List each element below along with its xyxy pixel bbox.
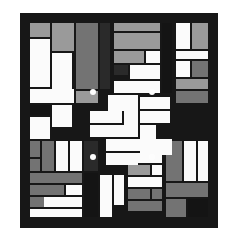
pattern-dot: [90, 89, 96, 95]
pattern-rectangle: [152, 165, 162, 175]
pattern-rectangle: [100, 175, 112, 217]
pattern-rectangle: [30, 159, 40, 171]
pattern-rectangle: [52, 23, 74, 51]
pattern-rectangle: [176, 51, 208, 59]
pattern-rectangle: [114, 65, 128, 75]
pattern-rectangle: [176, 23, 190, 49]
pattern-rectangle: [30, 173, 82, 183]
pattern-rectangle: [30, 105, 50, 115]
pattern-rectangle: [30, 89, 74, 103]
pattern-rectangle: [108, 95, 124, 111]
pattern-rectangle: [176, 91, 208, 103]
pattern-rectangle: [176, 79, 208, 89]
pattern-dot: [90, 154, 96, 160]
pattern-rectangle: [106, 153, 138, 165]
pattern-dot: [149, 89, 155, 95]
pattern-rectangle: [162, 23, 172, 93]
pattern-rectangle: [140, 125, 156, 155]
pattern-rectangle: [166, 183, 208, 197]
pattern-rectangle: [100, 23, 110, 89]
pattern-rectangle: [30, 141, 40, 157]
pattern-rectangle: [166, 199, 186, 217]
pattern-rectangle: [56, 141, 68, 171]
pattern-rectangle: [66, 185, 82, 195]
pattern-rectangle: [156, 139, 172, 155]
pattern-rectangle: [192, 61, 208, 77]
pattern-rectangle: [128, 177, 162, 187]
pattern-rectangle: [198, 141, 208, 181]
pattern-rectangle: [128, 189, 150, 199]
pattern-rectangle: [128, 165, 150, 175]
pattern-rectangle: [42, 141, 54, 171]
pattern-rectangle: [114, 175, 124, 205]
pattern-rectangle: [90, 125, 138, 137]
pattern-rectangle: [30, 39, 50, 87]
pattern-rectangle: [84, 173, 98, 217]
pattern-rectangle: [176, 61, 190, 77]
pattern-rectangle: [90, 111, 122, 123]
pattern-rectangle: [30, 117, 50, 139]
artwork-canvas: Geometric Quilt Pattern Abstract rectili…: [0, 0, 236, 243]
pattern-rectangle: [52, 105, 72, 127]
pattern-rectangle: [30, 209, 82, 217]
pattern-rectangle: [70, 141, 82, 171]
artwork-title: Geometric Quilt Pattern: [0, 21, 1, 22]
pattern-rectangle: [188, 199, 208, 217]
pattern-rectangle: [52, 53, 72, 89]
pattern-field: [20, 13, 218, 228]
pattern-rectangle: [130, 65, 160, 79]
pattern-rectangle: [184, 141, 196, 181]
pattern-border-frame: [20, 13, 218, 228]
pattern-rectangle: [114, 33, 160, 49]
pattern-rectangle: [140, 97, 170, 109]
pattern-rectangle: [152, 189, 162, 199]
pattern-rectangle: [114, 23, 160, 31]
pattern-rectangle: [30, 185, 64, 195]
pattern-rectangle: [44, 197, 82, 207]
pattern-rectangle: [76, 23, 98, 89]
pattern-dot: [149, 154, 155, 160]
pattern-rectangle: [124, 95, 138, 125]
pattern-rectangle: [192, 23, 208, 49]
pattern-rectangle: [146, 51, 160, 63]
pattern-rectangle: [114, 51, 144, 63]
pattern-rectangle: [140, 111, 170, 123]
artwork-description: Abstract rectilinear composition of whit…: [0, 16, 1, 17]
pattern-rectangle: [30, 23, 50, 37]
pattern-rectangle: [128, 201, 162, 211]
